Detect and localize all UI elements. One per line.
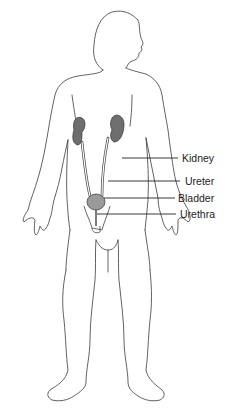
left-kidney [73,117,85,145]
right-kidney [111,115,125,142]
torso-left-outline [23,70,103,235]
hip-right [145,230,150,270]
crotch-line [96,240,118,250]
right-ureter [102,138,108,196]
bladder [87,194,105,210]
right-leg-outline [118,240,164,401]
label-ureter: Ureter [185,176,214,187]
head-outline [94,11,143,70]
left-inner-arm [67,140,70,230]
label-bladder: Bladder [178,193,214,204]
hip-left [66,230,70,270]
label-urethra: Urethra [180,209,215,220]
right-inner-arm [145,138,148,230]
human-body-diagram [0,0,229,410]
chest-line-right [130,95,132,126]
urinary-system [73,115,124,233]
left-leg-outline [48,240,96,401]
label-kidney: Kidney [182,153,214,164]
